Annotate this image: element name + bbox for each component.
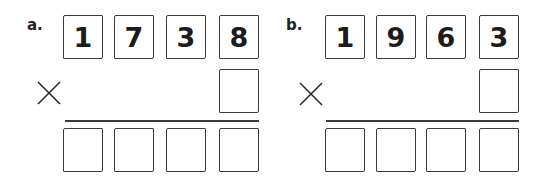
answer-digit-box[interactable] (426, 128, 466, 172)
answer-digit-box[interactable] (63, 128, 103, 172)
multiplicand-digit-box: 7 (114, 15, 154, 59)
multiplicand-digit-box: 1 (325, 15, 365, 59)
multiplicand-digit-box: 3 (166, 15, 206, 59)
answer-digit-box[interactable] (376, 128, 416, 172)
problem-label: b. (286, 18, 302, 33)
multiplicand-digit-box: 9 (376, 15, 416, 59)
problem-label: a. (27, 18, 43, 33)
multiplicand-digit-box: 3 (479, 15, 519, 59)
multiply-sign-icon (299, 82, 323, 106)
answer-digit-box[interactable] (166, 128, 206, 172)
sum-line (65, 120, 259, 122)
multiplicand-digit-box: 1 (63, 15, 103, 59)
multiplier-input-box[interactable] (219, 69, 259, 113)
answer-digit-box[interactable] (479, 128, 519, 172)
multiply-sign-icon (37, 81, 61, 105)
sum-line (326, 120, 519, 122)
answer-digit-box[interactable] (325, 128, 365, 172)
multiplicand-digit-box: 6 (426, 15, 466, 59)
answer-digit-box[interactable] (114, 128, 154, 172)
answer-digit-box[interactable] (219, 128, 259, 172)
multiplier-input-box[interactable] (479, 69, 519, 113)
multiplicand-digit-box: 8 (219, 15, 259, 59)
